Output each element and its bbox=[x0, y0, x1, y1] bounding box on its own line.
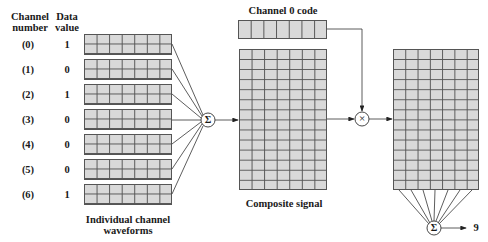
sum-icon-output: Σ bbox=[427, 222, 441, 233]
output-value: 9 bbox=[470, 222, 482, 233]
multiply-icon: × bbox=[355, 113, 369, 124]
sum-icon: Σ bbox=[201, 114, 215, 125]
connector-lines bbox=[0, 0, 488, 242]
